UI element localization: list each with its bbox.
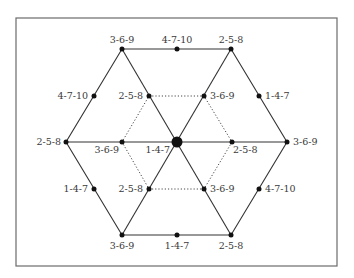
label-mid-top: 4-7-10 <box>162 34 193 45</box>
label-mid-lower-right: 4-7-10 <box>265 183 296 194</box>
label-bottom-right: 2-5-8 <box>219 240 244 251</box>
label-bottom-left: 3-6-9 <box>110 240 135 251</box>
label-inner-bottom-left: 2-5-8 <box>118 183 143 194</box>
label-inner-bottom-right: 3-6-9 <box>210 183 235 194</box>
hexagon-diagram: 3-6-9 2-5-8 3-6-9 2-5-8 3-6-9 2-5-8 4-7-… <box>0 0 354 278</box>
label-mid-upper-left: 4-7-10 <box>57 90 88 101</box>
label-inner-top-right: 3-6-9 <box>210 90 235 101</box>
label-top-left: 3-6-9 <box>110 34 135 45</box>
label-left: 2-5-8 <box>36 136 61 147</box>
center-dot <box>172 137 183 148</box>
label-mid-bottom: 1-4-7 <box>165 240 190 251</box>
label-center: 1-4-7 <box>145 144 170 155</box>
label-right: 3-6-9 <box>293 136 318 147</box>
label-inner-left: 3-6-9 <box>94 144 119 155</box>
label-inner-right: 2-5-8 <box>233 144 258 155</box>
label-top-right: 2-5-8 <box>219 34 244 45</box>
label-mid-upper-right: 1-4-7 <box>265 90 290 101</box>
label-mid-lower-left: 1-4-7 <box>63 183 88 194</box>
label-inner-top-left: 2-5-8 <box>118 90 143 101</box>
